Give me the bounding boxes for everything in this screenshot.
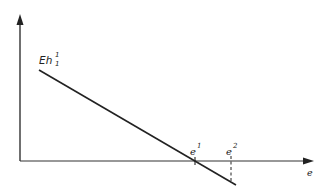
eh-label: Eh xyxy=(39,54,52,66)
e1-label-sup: 1 xyxy=(197,142,201,150)
diagram-canvas: Eh 1 1 e 1 e 2 e xyxy=(0,0,328,196)
y-axis-arrow-icon xyxy=(17,14,24,25)
eh-label-sub: 1 xyxy=(55,60,59,68)
eh-label-sup: 1 xyxy=(55,51,59,59)
e1-label: e xyxy=(190,146,196,157)
x-axis-arrow-icon xyxy=(303,158,314,165)
eh-line xyxy=(39,70,236,185)
e2-label-sup: 2 xyxy=(232,142,238,150)
x-axis-label: e xyxy=(307,167,313,178)
e2-label: e xyxy=(226,146,232,157)
